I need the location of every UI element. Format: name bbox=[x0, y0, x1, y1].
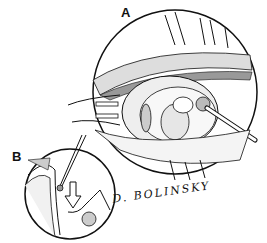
panel-label-b: B bbox=[12, 149, 21, 164]
panel-label-a: A bbox=[121, 5, 130, 20]
illustration bbox=[0, 0, 267, 243]
panel-b-inset bbox=[25, 135, 115, 239]
